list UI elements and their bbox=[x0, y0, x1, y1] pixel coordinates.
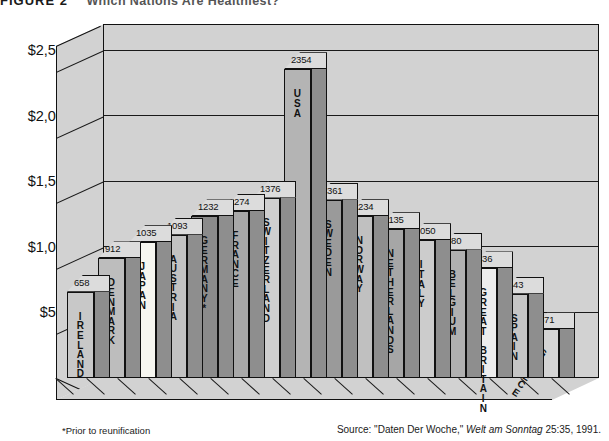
source-suffix: 25:35, 1991. bbox=[545, 424, 601, 435]
side-wall-gridline-5 bbox=[56, 51, 104, 73]
side-wall-gridline-3 bbox=[56, 182, 104, 204]
bar-side-face bbox=[311, 52, 327, 378]
bar-side-face bbox=[249, 194, 265, 378]
bar-side-face bbox=[497, 251, 513, 378]
bar-value-label: 2354 bbox=[291, 53, 311, 67]
source-citation: Source: "Daten Der Woche," Welt am Sonnt… bbox=[337, 424, 601, 435]
floor-depth-line bbox=[55, 378, 74, 395]
bar-value-label: 1035 bbox=[136, 226, 156, 240]
bar-value-label: 912 bbox=[105, 242, 120, 256]
side-wall-gridline-4 bbox=[56, 116, 104, 138]
chart-title: Which Nations Are Healthiest? bbox=[86, 0, 279, 7]
footnote: *Prior to reunification bbox=[62, 425, 150, 436]
bar-value-label: 1232 bbox=[198, 200, 218, 214]
figure-label: FIGURE 2 bbox=[0, 0, 68, 7]
gridline-3 bbox=[104, 181, 598, 182]
side-wall-gridline-2 bbox=[56, 247, 104, 269]
gridline-5 bbox=[104, 50, 598, 51]
bar-side-face bbox=[280, 181, 296, 378]
side-wall-left-edge bbox=[56, 46, 57, 400]
bar-front-face: I R E L A N D bbox=[67, 292, 94, 378]
bar-side-face bbox=[218, 199, 234, 378]
chart-plot-area: I R E L A N D658D E N M A R K912J A P A … bbox=[56, 24, 599, 400]
bar-value-label: 658 bbox=[74, 276, 89, 290]
bar-side-face bbox=[466, 233, 482, 378]
bar-category-label: U S A bbox=[285, 89, 310, 118]
bar-category-label: I R E L A N D bbox=[68, 312, 93, 379]
bar-value-label: 1376 bbox=[260, 182, 280, 196]
source-publication: Welt am Sonntag bbox=[466, 424, 543, 435]
bar-side-face bbox=[435, 223, 451, 378]
bar-side-face bbox=[373, 199, 389, 378]
bar-side-face bbox=[404, 212, 420, 378]
source-prefix: Source: "Daten Der Woche," bbox=[337, 424, 463, 435]
bar-ireland[interactable]: I R E L A N D658 bbox=[67, 275, 94, 378]
page-title: FIGURE 2 Which Nations Are Healthiest? bbox=[0, 0, 609, 7]
gridline-4 bbox=[104, 115, 598, 116]
bar-side-face bbox=[187, 218, 203, 378]
bar-side-face bbox=[342, 183, 358, 378]
bar-side-face bbox=[125, 241, 141, 378]
bar-side-face bbox=[156, 225, 172, 378]
